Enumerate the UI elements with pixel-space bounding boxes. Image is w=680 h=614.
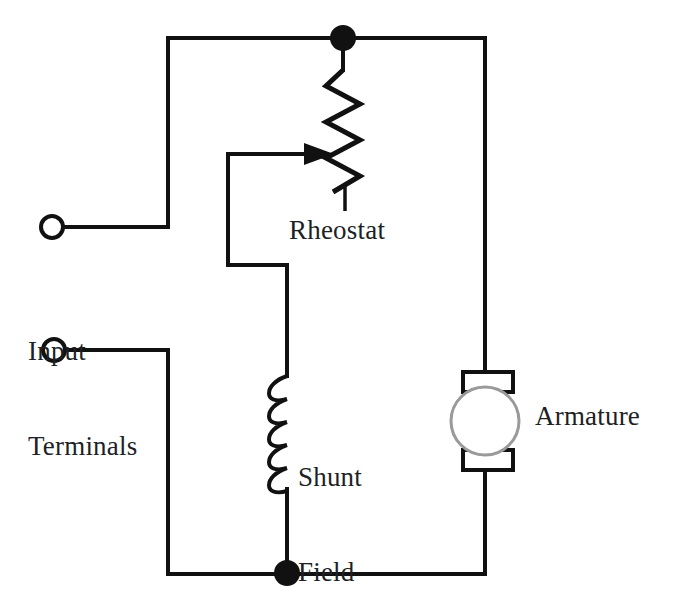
input-terminal-top[interactable]: [41, 216, 63, 238]
junction-node-top: [330, 25, 356, 51]
label-input-terminals-line1: Input: [28, 336, 137, 368]
rheostat-wiper-arm[interactable]: [228, 143, 334, 165]
armature-rotor-icon: [451, 387, 519, 455]
label-shunt-field-line2: Field: [298, 557, 362, 589]
rheostat-symbol[interactable]: [326, 70, 360, 211]
label-shunt-field-line1: Shunt: [298, 462, 362, 494]
junction-node-bottom: [274, 560, 300, 586]
label-rheostat: Rheostat: [289, 215, 385, 247]
circuit-diagram: Rheostat Input Terminals Shunt Field Lon…: [0, 0, 680, 614]
rheostat-zigzag-icon: [326, 70, 360, 192]
shunt-field-coil-icon: [269, 376, 287, 492]
label-input-terminals: Input Terminals: [28, 272, 137, 527]
armature-symbol[interactable]: [451, 372, 519, 470]
label-armature: Armature: [535, 401, 640, 433]
label-input-terminals-line2: Terminals: [28, 431, 137, 463]
shunt-field-coil-symbol[interactable]: [269, 376, 287, 492]
label-shunt-field: Shunt Field Long: [298, 398, 362, 614]
wiper-return-wire: [228, 154, 287, 376]
